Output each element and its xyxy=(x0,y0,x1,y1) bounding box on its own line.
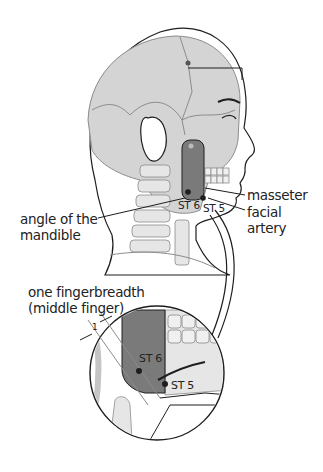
label-st6-inset: ST 6 xyxy=(139,353,162,364)
label-measure-unit: 1 xyxy=(92,322,97,333)
label-facial-artery-2: artery xyxy=(247,221,286,236)
label-st5-main: ST 5 xyxy=(203,203,225,214)
label-angle-2: mandible xyxy=(20,228,81,243)
label-facial-artery-1: facial xyxy=(247,205,281,220)
label-fingerbreadth-1: one fingerbreadth xyxy=(28,285,145,300)
st5-point-inset xyxy=(162,381,168,387)
label-masseter: masseter xyxy=(247,188,308,203)
st6-point-inset xyxy=(136,368,142,374)
st5-point-main xyxy=(200,195,206,201)
label-st6-main: ST 6 xyxy=(178,200,200,211)
st6-point-main xyxy=(185,189,191,195)
label-angle-1: angle of the xyxy=(20,212,98,227)
masseter-muscle xyxy=(182,140,204,200)
label-st5-inset: ST 5 xyxy=(171,380,194,391)
label-fingerbreadth-2: (middle finger) xyxy=(28,301,124,316)
